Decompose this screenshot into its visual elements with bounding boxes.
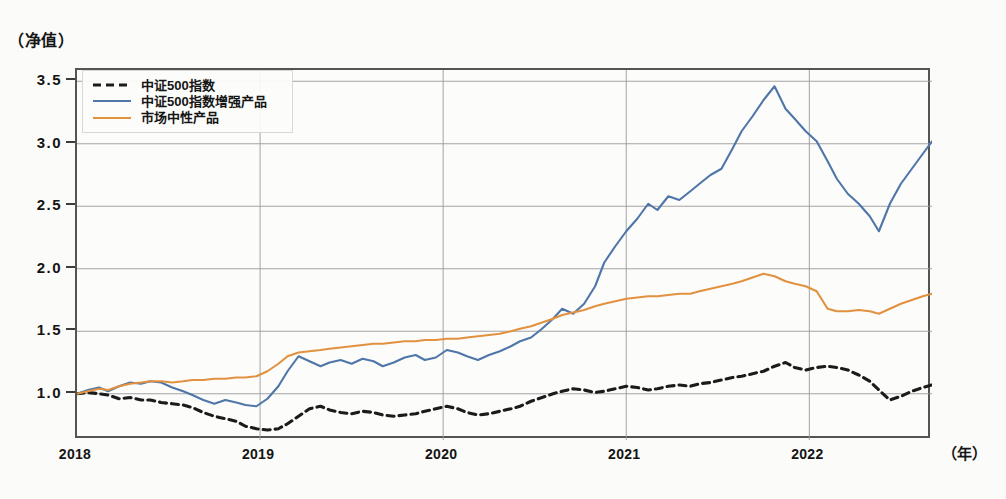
y-tick-mark: [66, 266, 75, 268]
y-tick-label: 2.5: [37, 196, 62, 213]
y-tick-label: 3.0: [37, 133, 62, 150]
y-tick-mark: [66, 78, 75, 80]
y-tick-mark: [66, 391, 75, 393]
legend-item: 中证500指数: [92, 77, 284, 93]
series-line-neutral: [77, 274, 932, 394]
x-tick-label: 2018: [59, 446, 91, 462]
legend-item: 中证500指数增强产品: [92, 93, 284, 109]
y-tick-mark: [66, 328, 75, 330]
legend-swatch-dashed-icon: [92, 78, 132, 92]
y-tick-label: 1.0: [37, 383, 62, 400]
legend-swatch-orange-icon: [92, 111, 132, 125]
legend-label: 中证500指数增强产品: [141, 95, 267, 108]
legend-label: 中证500指数: [141, 79, 215, 92]
series-line-index: [77, 363, 932, 431]
legend-swatch-blue-icon: [92, 94, 132, 108]
y-tick-label: 2.0: [37, 258, 62, 275]
legend-label: 市场中性产品: [141, 111, 219, 124]
legend-item: 市场中性产品: [92, 110, 284, 126]
series-line-enhanced: [77, 86, 932, 406]
y-tick-label: 1.5: [37, 321, 62, 338]
x-axis-title: （年）: [942, 442, 987, 463]
chart-legend: 中证500指数 中证500指数增强产品 市场中性产品: [82, 70, 293, 133]
y-tick-mark: [66, 203, 75, 205]
y-tick-label: 3.5: [37, 71, 62, 88]
x-tick-label: 2020: [425, 446, 457, 462]
x-tick-label: 2021: [608, 446, 640, 462]
x-tick-label: 2019: [242, 446, 274, 462]
y-axis-title: （净值）: [8, 27, 74, 51]
x-tick-label: 2022: [791, 446, 823, 462]
y-tick-mark: [66, 141, 75, 143]
chart-page: （净值） （年） 1.01.52.02.53.03.5 201820192020…: [0, 0, 1006, 499]
